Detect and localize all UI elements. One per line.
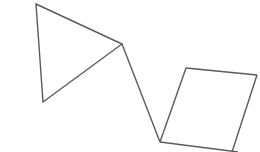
diagram-canvas bbox=[0, 0, 260, 152]
background bbox=[0, 0, 260, 152]
